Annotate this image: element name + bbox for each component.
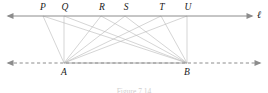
- geometry-canvas: [0, 0, 268, 93]
- arrowheads-group: [7, 13, 262, 66]
- top-point-label-s: S: [124, 3, 129, 13]
- top-point-label-r: R: [99, 3, 105, 13]
- line-ell-arrow-left: [7, 13, 14, 19]
- line-ab-arrow-right: [255, 60, 262, 66]
- geometry-figure: PQRSTU AB ℓ Figure 7.14: [0, 0, 268, 93]
- connector-AP: [43, 16, 64, 63]
- top-point-label-u: U: [185, 3, 192, 13]
- bottom-point-label-b: B: [184, 68, 190, 78]
- figure-caption: Figure 7.14: [0, 88, 268, 93]
- bottom-point-label-a: A: [61, 68, 67, 78]
- connector-lines-group: [43, 16, 187, 63]
- connector-AT: [64, 16, 161, 63]
- top-point-label-p: P: [40, 3, 46, 13]
- connector-BP: [43, 16, 187, 63]
- top-point-label-t: T: [159, 3, 164, 13]
- top-point-label-q: Q: [62, 3, 69, 13]
- line-ab-arrow-left: [7, 60, 14, 66]
- line-ell-label: ℓ: [257, 10, 261, 20]
- line-ell-arrow-right: [247, 13, 254, 19]
- connector-BS: [125, 16, 187, 63]
